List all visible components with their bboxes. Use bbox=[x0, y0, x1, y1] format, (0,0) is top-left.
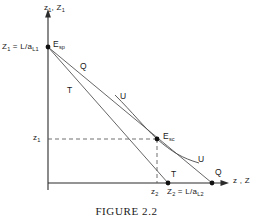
curve-label-q-bottom: Q bbox=[215, 168, 222, 177]
curve-label-q-upper: Q bbox=[80, 62, 87, 71]
curve-label-u-upper: U bbox=[120, 92, 126, 101]
curve-q bbox=[48, 47, 212, 183]
point-label-esc: Esc bbox=[163, 132, 175, 141]
figure-drawing bbox=[0, 0, 253, 216]
point-q-marker bbox=[210, 181, 215, 186]
point-esp-marker bbox=[46, 45, 51, 50]
y-axis bbox=[45, 9, 51, 190]
y-axis-label: z1, Z1 bbox=[44, 4, 65, 12]
curve-label-t-bottom: T bbox=[171, 170, 177, 179]
x-axis-label: z , Z bbox=[233, 177, 250, 185]
figure-container: z1, Z1 z , Z Z1 = L/aL1 z1 z2 Z2 = L/aL2… bbox=[0, 0, 253, 216]
x-intercept-label: Z2 = L/aL2 bbox=[167, 188, 204, 196]
dashed-guides bbox=[48, 139, 157, 183]
point-label-esp: Esp bbox=[53, 40, 65, 49]
x-tick-label-z2: z2 bbox=[151, 188, 158, 196]
y-tick-label-z1: z1 bbox=[33, 134, 40, 142]
y-intercept-label: Z1 = L/aL1 bbox=[2, 43, 39, 51]
curve-t bbox=[48, 47, 168, 183]
curve-label-t-upper: T bbox=[67, 86, 73, 95]
point-esc-marker bbox=[155, 137, 160, 142]
curve-label-u-lower: U bbox=[198, 155, 204, 164]
point-t-marker bbox=[166, 181, 171, 186]
figure-caption: FIGURE 2.2 bbox=[0, 205, 253, 216]
curve-u bbox=[115, 95, 199, 163]
x-axis bbox=[48, 180, 229, 186]
